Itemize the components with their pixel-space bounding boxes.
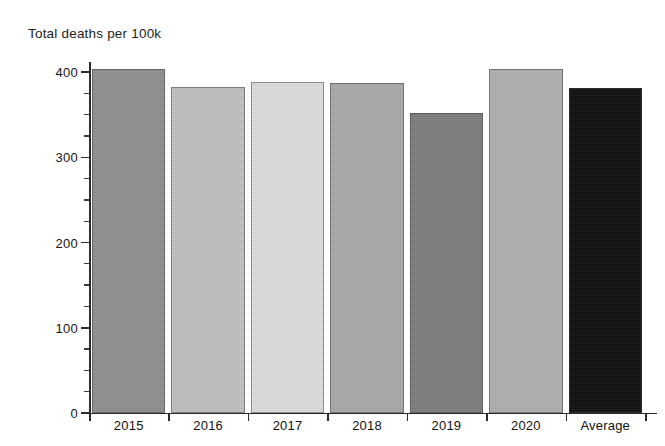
x-tick-label-average: Average [569,418,642,433]
bar-2018 [330,83,403,413]
x-tick-label-2017: 2017 [251,418,324,433]
x-tick-label-2019: 2019 [410,418,483,433]
bar-2017 [251,82,324,413]
bar-2020 [489,69,562,413]
bar-2019 [410,113,483,413]
x-tick-label-2016: 2016 [171,418,244,433]
x-tick-label-2020: 2020 [489,418,562,433]
bar-2016 [171,87,244,413]
bar-average [569,88,642,413]
x-tick-label-2015: 2015 [92,418,165,433]
bar-chart: Total deaths per 100k 0100200300400 2015… [0,0,665,446]
bars-layer [0,0,665,446]
bar-2015 [92,69,165,413]
x-tick-label-2018: 2018 [330,418,403,433]
